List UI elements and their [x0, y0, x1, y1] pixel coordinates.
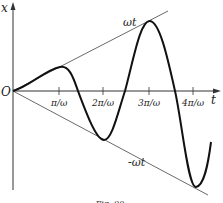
tick-label-1: π/ω	[50, 98, 68, 108]
upper-envelope-label: ωt	[123, 16, 137, 29]
origin-label: O	[1, 85, 11, 99]
oscillation-diagram: x t O ωt -ωt π/ω 2π/ω 3π/ω 4π/ω Fig. 90	[0, 0, 223, 203]
tick-label-2: 2π/ω	[91, 98, 115, 108]
lower-envelope-label: -ωt	[128, 156, 146, 169]
y-axis-label: x	[1, 1, 8, 15]
tick-label-4: 4π/ω	[181, 98, 205, 108]
y-axis-arrow-icon	[11, 2, 16, 10]
x-axis-label: t	[211, 93, 216, 107]
figure-caption: Fig. 90	[96, 199, 125, 203]
tick-label-3: 3π/ω	[138, 98, 161, 108]
